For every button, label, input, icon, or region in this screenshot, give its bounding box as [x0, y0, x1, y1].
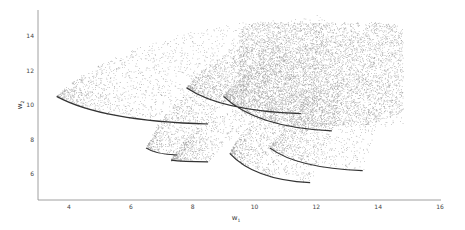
- y-tick-label: 6: [30, 170, 34, 177]
- x-tick-label: 14: [374, 203, 382, 210]
- x-tick-label: 12: [313, 203, 321, 210]
- x-tick-label: 6: [129, 203, 133, 210]
- x-tick-label: 4: [67, 203, 71, 210]
- scatter-chart: 46810121416 68101214 w1 w2: [0, 0, 465, 230]
- y-tick-label: 14: [26, 32, 34, 39]
- axes: [38, 10, 441, 200]
- x-axis-label: w1: [232, 214, 241, 223]
- y-axis-label: w2: [16, 101, 25, 110]
- data-points: [57, 15, 404, 183]
- y-tick-label: 8: [30, 136, 34, 143]
- scatter-points: [57, 15, 404, 183]
- crescent-edges: [57, 88, 363, 183]
- x-tick-label: 8: [191, 203, 195, 210]
- x-tick-label: 16: [436, 203, 444, 210]
- y-tick-labels: 68101214: [26, 32, 34, 177]
- x-tick-labels: 46810121416: [67, 203, 444, 210]
- x-tick-label: 10: [251, 203, 259, 210]
- y-tick-label: 10: [26, 101, 34, 108]
- y-tick-label: 12: [26, 67, 34, 74]
